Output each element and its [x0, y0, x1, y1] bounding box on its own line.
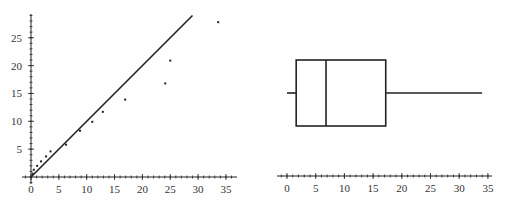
y-tick-label: 10	[11, 115, 23, 127]
x-tick-label: 25	[425, 182, 437, 194]
x-tick-label: 5	[313, 182, 319, 194]
x-tick-label: 20	[137, 183, 149, 195]
x-tick-label: 5	[56, 183, 62, 195]
iqr-box	[296, 60, 386, 126]
data-point	[33, 169, 35, 171]
data-point	[124, 99, 126, 101]
data-point	[102, 111, 104, 113]
data-point	[217, 21, 219, 23]
x-tick-label: 10	[339, 182, 351, 194]
data-point	[32, 173, 34, 175]
x-tick-label: 20	[396, 182, 408, 194]
x-tick-label: 0	[28, 183, 34, 195]
x-tick-label: 35	[220, 183, 232, 195]
data-point	[36, 165, 38, 167]
data-point	[164, 82, 166, 84]
x-tick-label: 25	[165, 183, 177, 195]
x-tick-label: 10	[81, 183, 93, 195]
box-plot-panel: 05101520253035	[277, 60, 494, 194]
data-point	[45, 155, 47, 157]
data-point	[169, 60, 171, 62]
y-tick-label: 5	[17, 143, 23, 155]
y-tick-label: 15	[11, 87, 23, 99]
x-tick-label: 0	[284, 182, 290, 194]
y-tick-label: 20	[11, 60, 23, 72]
x-tick-label: 15	[109, 183, 121, 195]
scatter-plot-panel: 05101520253035510152025	[11, 14, 237, 195]
x-tick-label: 30	[193, 183, 205, 195]
reference-line	[31, 15, 193, 177]
data-point	[65, 144, 67, 146]
data-point	[49, 150, 51, 152]
y-tick-label: 25	[11, 32, 23, 44]
data-point	[91, 121, 93, 123]
data-point	[40, 160, 42, 162]
data-point	[79, 130, 81, 132]
figure: 05101520253035510152025 05101520253035	[0, 0, 506, 202]
x-tick-label: 30	[454, 182, 466, 194]
x-tick-label: 35	[482, 182, 494, 194]
x-tick-label: 15	[368, 182, 380, 194]
